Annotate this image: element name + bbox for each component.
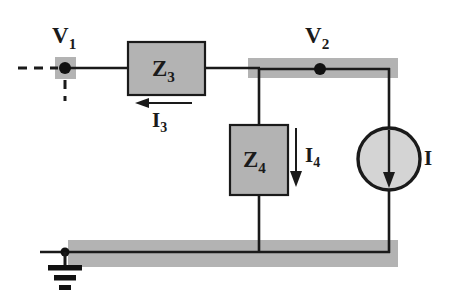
node-label-v1: V1: [52, 24, 76, 51]
current-label-i3: I3: [152, 110, 167, 135]
circuit-diagram: V1 V2 Z3 Z4 I I3 I4: [0, 0, 454, 299]
i3-arrow-head: [135, 98, 149, 108]
bottom-bus-highlight: [68, 240, 398, 267]
ground-bar-2-icon: [54, 275, 76, 281]
v1-node-dot: [59, 62, 71, 74]
node-label-v2: V2: [305, 24, 329, 51]
current-label-i4: I4: [305, 145, 320, 170]
component-label-current-source: I: [424, 148, 432, 169]
component-label-z4: Z4: [243, 148, 266, 175]
v2-node-dot: [314, 63, 326, 75]
i4-arrow-head: [290, 171, 302, 187]
component-label-z3: Z3: [152, 57, 175, 84]
ground-bar-1-icon: [48, 265, 82, 271]
ground-bar-3-icon: [59, 285, 71, 290]
